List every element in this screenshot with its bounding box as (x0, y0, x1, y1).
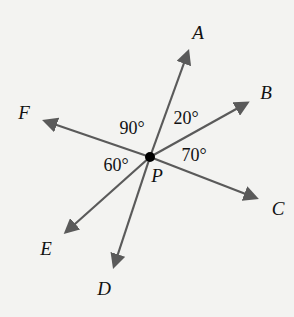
point-label-b: B (260, 83, 272, 102)
angle-label-ef: 60° (103, 156, 128, 174)
center-label: P (151, 166, 163, 185)
rays-drawing (0, 0, 294, 317)
point-p-dot (145, 152, 155, 162)
ray-pa (150, 52, 188, 157)
point-label-e: E (40, 239, 52, 258)
angle-diagram: P ABCDEF90°20°70°60° (0, 0, 294, 317)
angle-label-bc: 70° (181, 146, 206, 164)
point-label-d: D (97, 279, 111, 298)
point-label-c: C (272, 199, 285, 218)
point-label-a: A (192, 23, 204, 42)
point-label-f: F (18, 103, 30, 122)
angle-label-fa: 90° (119, 119, 144, 137)
angle-label-ab: 20° (173, 109, 198, 127)
